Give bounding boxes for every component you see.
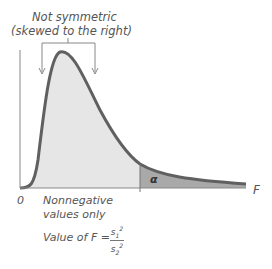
formula-fraction: s12 s22 xyxy=(110,225,124,256)
alpha-label: α xyxy=(150,173,158,186)
formula-denominator: s22 xyxy=(111,242,123,256)
origin-label: 0 xyxy=(17,194,24,207)
x-axis-label: F xyxy=(253,183,260,197)
nonnegative-line-1: Nonnegative xyxy=(43,194,113,207)
formula-prefix: Value of F = xyxy=(43,231,110,244)
annotation-line-2: (skewed to the right) xyxy=(11,24,132,38)
fraction-bar xyxy=(110,240,124,241)
annotation-line-1: Not symmetric xyxy=(32,10,117,24)
f-distribution-diagram xyxy=(0,0,272,269)
formula-numerator: s12 xyxy=(111,225,123,239)
nonnegative-line-2: values only xyxy=(43,208,106,221)
